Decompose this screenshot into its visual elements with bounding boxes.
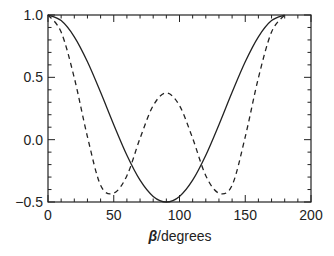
- x-tick-label: 150: [234, 207, 258, 223]
- x-axis-unit: /degrees: [157, 228, 211, 244]
- axes-frame: [48, 15, 311, 202]
- tick-labels: 050100150200−0.50.00.51.0: [15, 7, 323, 223]
- dashed-curve: [48, 15, 285, 194]
- y-tick-label: 1.0: [24, 7, 44, 23]
- axis-ticks: [48, 15, 311, 202]
- y-tick-label: −0.5: [15, 194, 43, 210]
- data-curves: [48, 15, 285, 202]
- x-tick-label: 100: [168, 207, 192, 223]
- x-axis-label: β/degrees: [147, 228, 211, 244]
- x-tick-label: 0: [44, 207, 52, 223]
- x-tick-label: 50: [106, 207, 122, 223]
- y-tick-label: 0.5: [24, 69, 44, 85]
- x-axis-symbol: β: [147, 228, 157, 244]
- y-tick-label: 0.0: [24, 132, 44, 148]
- plot-area: 050100150200−0.50.00.51.0 β/degrees: [0, 0, 334, 256]
- solid-curve: [48, 15, 285, 202]
- x-tick-label: 200: [299, 207, 323, 223]
- chart: 050100150200−0.50.00.51.0 β/degrees: [0, 0, 334, 256]
